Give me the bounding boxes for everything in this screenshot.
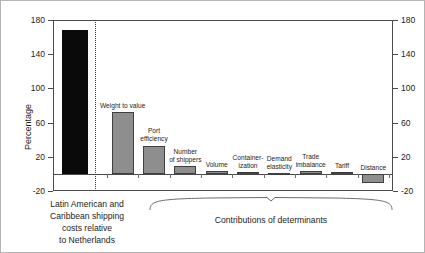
y-tick-right--20 (393, 191, 398, 192)
bar-number-of-shippers (174, 166, 196, 174)
x-tick (138, 174, 139, 178)
determinants-brace-icon (149, 197, 393, 211)
bar-label-number-of-shippers: Number of shippers (169, 148, 201, 164)
y-tick-label-right-100: 100 (401, 84, 415, 93)
y-tick-label-left-20: 20 (36, 153, 45, 162)
y-axis-title: Percentage (23, 103, 33, 149)
y-tick-label-left-100: 100 (31, 84, 45, 93)
caption-total-group: Latin American and Caribbean shipping co… (29, 199, 145, 246)
bar-demand-elasticity (268, 173, 290, 175)
y-tick-left--20 (48, 191, 53, 192)
bar-trade-imbalance (300, 171, 322, 174)
y-tick-right-100 (393, 88, 398, 89)
x-tick (326, 174, 327, 178)
bar-label-tariff: Tariff (335, 162, 349, 170)
y-tick-label-left-180: 180 (31, 16, 45, 25)
y-tick-right-180 (393, 20, 398, 21)
y-tick-label-right-20: 20 (401, 153, 410, 162)
y-tick-left-60 (48, 123, 53, 124)
y-tick-right-20 (393, 157, 398, 158)
x-tick (358, 174, 359, 178)
caption-determinants-group: Contributions of determinants (151, 215, 391, 227)
y-tick-label-left-140: 140 (31, 50, 45, 59)
y-tick-left-180 (48, 20, 53, 21)
x-tick (170, 174, 171, 178)
x-tick (295, 174, 296, 178)
bar-total (62, 30, 88, 174)
y-tick-label-right-180: 180 (401, 16, 415, 25)
x-tick (389, 174, 390, 178)
y-tick-right-140 (393, 54, 398, 55)
bar-containerization (237, 172, 259, 174)
chart-figure: Percentage 1801401006020-20 180140100602… (0, 0, 425, 253)
y-tick-label-right-140: 140 (401, 50, 415, 59)
y-tick-left-140 (48, 54, 53, 55)
group-divider-line (95, 20, 96, 191)
bar-label-port-efficiency: Port efficiency (140, 127, 167, 143)
plot-top-border (53, 20, 393, 21)
x-tick (232, 174, 233, 178)
bar-distance (362, 174, 384, 183)
bar-label-trade-imbalance: Trade imbalance (296, 153, 326, 169)
x-tick (107, 174, 108, 178)
bar-tariff (331, 172, 353, 174)
bar-volume (206, 171, 228, 174)
bar-weight-to-value (112, 112, 134, 174)
bar-label-demand-elasticity: Demand elasticity (267, 155, 292, 171)
y-tick-right-60 (393, 123, 398, 124)
y-tick-label-left--20: -20 (33, 187, 45, 196)
y-axis-left-line (53, 20, 54, 191)
y-tick-label-right-60: 60 (401, 119, 410, 128)
y-tick-label-left-60: 60 (36, 119, 45, 128)
bar-label-containerization: Container- ization (233, 154, 264, 170)
x-tick (264, 174, 265, 178)
y-tick-label-right--20: -20 (401, 187, 413, 196)
y-axis-right-line (392, 20, 393, 191)
bar-port-efficiency (143, 146, 165, 174)
bar-label-distance: Distance (361, 164, 387, 172)
bar-label-weight-to-value: Weight to value (100, 102, 145, 110)
bar-label-volume: Volume (206, 161, 228, 169)
plot-area: 1801401006020-20 1801401006020-20 Weight… (53, 20, 393, 191)
y-tick-left-20 (48, 157, 53, 158)
y-tick-left-100 (48, 88, 53, 89)
plot-bottom-border (53, 190, 393, 191)
x-tick (201, 174, 202, 178)
